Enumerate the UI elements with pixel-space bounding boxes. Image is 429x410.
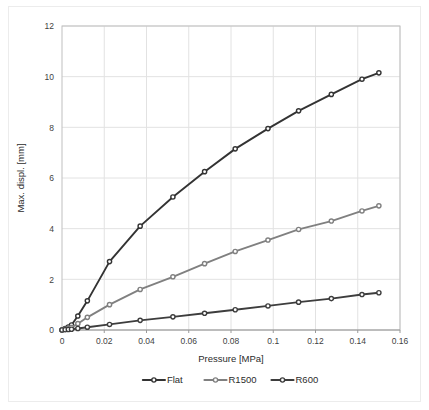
data-point-marker (266, 304, 270, 308)
legend-label: R1500 (229, 374, 257, 385)
x-axis-title: Pressure [MPa] (198, 353, 263, 364)
legend-label: Flat (167, 374, 183, 385)
legend-item-r1500[interactable]: R1500 (205, 374, 257, 385)
data-point-marker (171, 195, 175, 199)
x-axis-tick-label: 0.06 (180, 336, 197, 346)
x-axis-tick-label: 0.04 (138, 336, 155, 346)
data-point-marker (138, 318, 142, 322)
legend-item-r600[interactable]: R600 (272, 374, 319, 385)
data-point-marker (233, 308, 237, 312)
y-axis-tick-label: 4 (49, 224, 54, 234)
data-point-marker (377, 291, 381, 295)
data-point-marker (329, 92, 333, 96)
data-point-marker (360, 77, 364, 81)
x-axis-tick-label: 0.14 (349, 336, 366, 346)
x-axis-tick-labels: 00.020.040.060.080.10.120.140.16 (60, 330, 409, 346)
data-point-marker (138, 287, 142, 291)
y-axis-tick-labels: 024681012 (45, 21, 55, 335)
data-point-marker (138, 224, 142, 228)
data-point-marker (85, 299, 89, 303)
data-point-marker (297, 227, 301, 231)
data-point-marker (85, 315, 89, 319)
legend-label: R600 (296, 374, 319, 385)
data-point-marker (377, 204, 381, 208)
x-axis-tick-label: 0.12 (307, 336, 324, 346)
data-point-marker (233, 249, 237, 253)
y-axis-tick-label: 10 (45, 72, 55, 82)
data-point-marker (266, 127, 270, 131)
legend-marker-icon (213, 378, 217, 382)
y-axis-tick-label: 2 (49, 275, 54, 285)
x-axis-tick-label: 0.1 (267, 336, 279, 346)
data-point-marker (171, 275, 175, 279)
chart-figure: 00.020.040.060.080.10.120.140.16 0246810… (0, 0, 429, 410)
data-point-marker (377, 71, 381, 75)
data-point-marker (266, 238, 270, 242)
data-point-marker (360, 292, 364, 296)
data-point-marker (107, 303, 111, 307)
line-chart: 00.020.040.060.080.10.120.140.16 0246810… (0, 0, 429, 410)
data-point-marker (69, 327, 73, 331)
x-axis-tick-label: 0.02 (96, 336, 113, 346)
y-axis-tick-label: 12 (45, 21, 55, 31)
x-axis-tick-label: 0 (60, 336, 65, 346)
data-point-marker (107, 322, 111, 326)
data-point-marker (297, 109, 301, 113)
data-point-marker (85, 325, 89, 329)
data-point-marker (107, 260, 111, 264)
legend-marker-icon (280, 378, 284, 382)
data-point-marker (171, 315, 175, 319)
y-axis-tick-label: 6 (49, 173, 54, 183)
data-point-marker (329, 296, 333, 300)
legend-item-flat[interactable]: Flat (143, 374, 183, 385)
data-point-marker (76, 326, 80, 330)
data-point-marker (297, 300, 301, 304)
chart-legend: FlatR1500R600 (143, 374, 318, 385)
data-point-marker (76, 322, 80, 326)
data-point-marker (202, 262, 206, 266)
data-point-marker (360, 209, 364, 213)
data-point-marker (76, 314, 80, 318)
y-axis-tick-label: 8 (49, 123, 54, 133)
y-axis-tick-label: 0 (49, 325, 54, 335)
data-point-marker (233, 147, 237, 151)
x-axis-tick-label: 0.08 (223, 336, 240, 346)
data-point-marker (202, 311, 206, 315)
x-axis-tick-label: 0.16 (392, 336, 409, 346)
data-point-marker (329, 219, 333, 223)
legend-marker-icon (152, 378, 156, 382)
data-point-marker (202, 170, 206, 174)
y-axis-title: Max. displ. [mm] (15, 143, 26, 212)
